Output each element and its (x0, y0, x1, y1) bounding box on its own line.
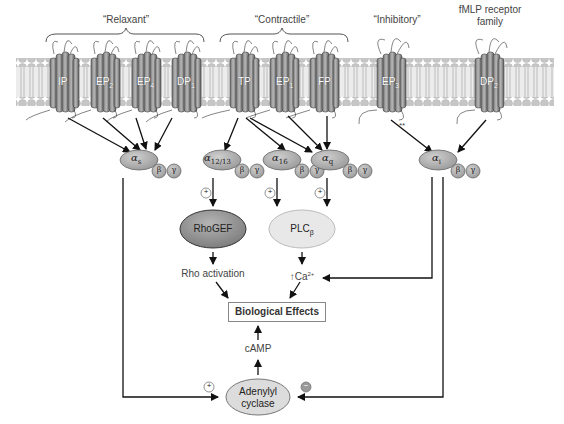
effector-arrows (123, 177, 443, 397)
beta-label: β (296, 165, 308, 174)
plus-sign: + (200, 187, 212, 196)
gamma-label: γ (168, 165, 180, 174)
g-alpha-16-label: α16 (272, 152, 288, 166)
gamma-label: γ (359, 165, 371, 174)
adenylyl-cyclase-label: Adenylyl cyclase (226, 386, 290, 410)
receptor-ep1: EP1 (276, 76, 293, 89)
fmlp-line2: family (452, 16, 528, 28)
receptor-ip: IP (58, 76, 67, 87)
receptor-ep2: EP2 (96, 76, 113, 89)
calcium-label: ↑Ca2+ (282, 268, 322, 283)
beta-label: β (452, 165, 464, 174)
contractile-brace (220, 28, 348, 42)
relaxant-label: “Relaxant” (96, 14, 156, 26)
inhibitory-label: “Inhibitory” (367, 14, 427, 26)
receptor-fp: FP (318, 76, 331, 87)
relaxant-brace (46, 28, 204, 42)
contractile-label: “Contractile” (252, 14, 312, 26)
receptor-ep3: EP3 (382, 76, 399, 89)
plus-sign: + (264, 187, 276, 196)
beta-label: β (344, 165, 356, 174)
fmlp-line1: fMLP receptor (452, 4, 528, 16)
fmlp-label: fMLP receptor family (452, 4, 528, 28)
ac-line1: Adenylyl (226, 386, 290, 398)
rho-activation-label: Rho activation (176, 268, 250, 280)
rhogef-label: RhoGEF (183, 223, 243, 234)
gamma-label: γ (311, 165, 323, 174)
pathway-diagram (0, 0, 564, 424)
gamma-label: γ (467, 165, 479, 174)
g-alpha-q-label: αq (322, 152, 333, 166)
g-alpha-1213-label: α12/13 (204, 152, 231, 166)
gamma-label: γ (251, 165, 263, 174)
camp-label: cAMP (238, 343, 278, 355)
ac-line2: cyclase (226, 398, 290, 410)
plus-sign: + (314, 187, 326, 196)
g-alpha-s-label: αs (131, 152, 141, 166)
beta-label: β (236, 165, 248, 174)
receptor-tp: TP (238, 76, 251, 87)
receptor-dp1: DP1 (177, 76, 195, 89)
receptor-ep4: EP4 (137, 76, 154, 89)
g-alpha-i-label: αi (432, 152, 441, 166)
receptor-dp2: DP2 (480, 76, 498, 89)
minus-sign: − (300, 381, 312, 390)
beta-label: β (153, 165, 165, 174)
plus-sign: + (203, 381, 215, 390)
receptor-arrows (68, 116, 486, 152)
plc-beta-label: PLCβ (272, 223, 332, 236)
biological-effects-box: Biological Effects (228, 302, 326, 322)
double-star-annotation: ** (399, 120, 405, 132)
